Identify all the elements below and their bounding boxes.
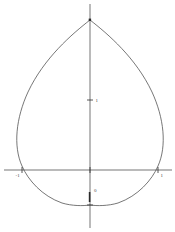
bottom-dimple-marker — [89, 192, 91, 202]
cardioid-figure: 1 -1 1 0 — [0, 0, 175, 232]
y-tick-one-label: 1 — [96, 98, 99, 103]
plot-canvas: 1 -1 1 0 — [0, 0, 175, 232]
x-tick-neg-one-label: -1 — [16, 173, 21, 178]
cusp-marker-top — [89, 19, 91, 21]
y-tick-lower-label: 0 — [94, 188, 97, 193]
x-tick-one-label: 1 — [161, 173, 164, 178]
